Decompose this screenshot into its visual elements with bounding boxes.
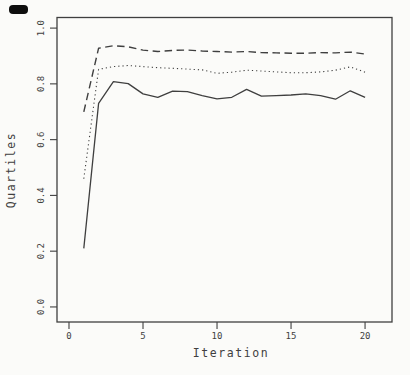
y-axis-tick-label: 0.4	[36, 187, 46, 203]
y-axis-tick-label: 0.0	[36, 299, 46, 315]
quartiles-line-chart: 051015200.00.20.40.60.81.0 Iteration Qua…	[0, 0, 410, 375]
y-axis-title: Quartiles	[4, 132, 18, 209]
x-axis-tick-label: 0	[66, 331, 71, 341]
y-axis-tick-label: 1.0	[36, 20, 46, 36]
x-axis-tick-label: 20	[360, 331, 371, 341]
plot-area: 051015200.00.20.40.60.81.0	[36, 18, 392, 342]
series-solid-line-lower-quartile	[84, 82, 365, 249]
x-axis-tick-label: 15	[286, 331, 297, 341]
y-axis-tick-label: 0.2	[36, 243, 46, 259]
y-axis-tick-label: 0.6	[36, 132, 46, 148]
series-dotted-line-median	[84, 66, 365, 179]
plot-box	[57, 18, 392, 323]
series-dashed-line-upper-quartile	[84, 46, 365, 112]
x-axis-tick-label: 10	[212, 331, 223, 341]
x-axis-tick-label: 5	[140, 331, 145, 341]
y-axis-tick-label: 0.8	[36, 76, 46, 92]
scanned-figure-page: 051015200.00.20.40.60.81.0 Iteration Qua…	[0, 0, 410, 375]
x-axis-title: Iteration	[193, 346, 270, 360]
